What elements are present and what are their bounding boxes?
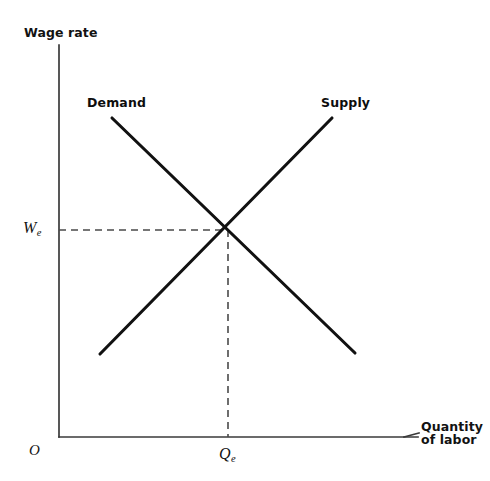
x-axis-title: Quantityof labor <box>421 420 483 446</box>
demand-curve <box>112 118 355 353</box>
equilibrium-quantity-subscript: e <box>231 453 236 464</box>
equilibrium-wage-symbol: W <box>23 219 36 236</box>
origin-label: O <box>29 443 40 459</box>
demand-curve-label: Demand <box>87 96 146 109</box>
equilibrium-quantity-symbol: Q <box>219 445 231 462</box>
equilibrium-wage-label: We <box>23 220 42 238</box>
supply-curve <box>100 118 332 354</box>
equilibrium-quantity-label: Qe <box>219 446 236 464</box>
supply-curve-label: Supply <box>321 96 370 109</box>
y-axis-title: Wage rate <box>24 26 98 39</box>
x-axis-title-line-2: of labor <box>421 432 477 447</box>
equilibrium-wage-subscript: e <box>37 227 42 238</box>
supply-demand-plot <box>0 0 490 481</box>
wage-determination-figure: Wage rate Demand Supply We Qe O Quantity… <box>0 0 490 481</box>
